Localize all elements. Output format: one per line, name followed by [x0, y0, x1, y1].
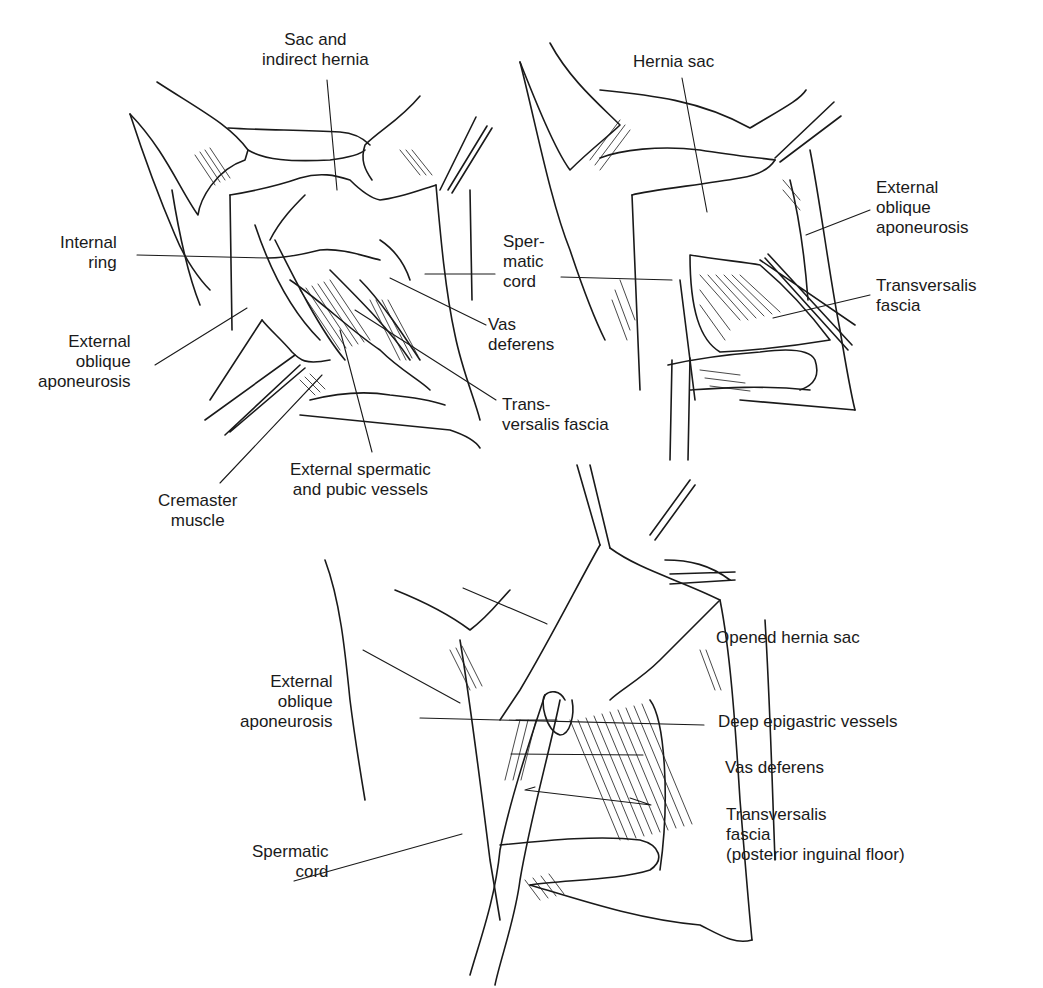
- label-vas-deferens-tl: Vas deferens: [488, 315, 554, 355]
- leader-lines-top-right: [561, 78, 870, 318]
- label-internal-ring: Internal ring: [60, 233, 117, 273]
- label-transversalis-fascia-tl: Trans- versalis fascia: [502, 395, 609, 435]
- label-cremaster-muscle: Cremaster muscle: [158, 491, 237, 531]
- label-opened-hernia-sac: Opened hernia sac: [716, 628, 860, 648]
- label-hernia-sac: Hernia sac: [633, 52, 714, 72]
- panel-top-left-drawing: [130, 82, 492, 448]
- label-sac-and-indirect-hernia: Sac and indirect hernia: [262, 30, 369, 70]
- label-external-oblique-aponeurosis-b: External oblique aponeurosis: [240, 672, 333, 732]
- label-transversalis-fascia-b: Transversalis fascia (posterior inguinal…: [726, 805, 905, 865]
- label-external-oblique-aponeurosis-tr: External oblique aponeurosis: [876, 178, 969, 238]
- label-external-oblique-aponeurosis-tl: External oblique aponeurosis: [38, 332, 131, 392]
- label-external-spermatic-and-pubic-vessels: External spermatic and pubic vessels: [290, 460, 431, 500]
- label-transversalis-fascia-tr: Transversalis fascia: [876, 276, 976, 316]
- leader-lines-top-left: [137, 80, 496, 483]
- label-spermatic-cord-tl: Sper- matic cord: [503, 232, 545, 292]
- label-deep-epigastric-vessels: Deep epigastric vessels: [718, 712, 898, 732]
- panel-bottom-drawing: [325, 465, 775, 985]
- label-vas-deferens-b: Vas deferens: [725, 758, 824, 778]
- label-spermatic-cord-b: Spermatic cord: [252, 842, 329, 882]
